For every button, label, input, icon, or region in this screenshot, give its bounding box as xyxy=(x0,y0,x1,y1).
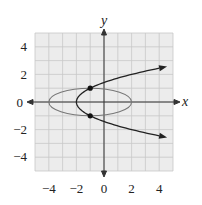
intersection-point-lower xyxy=(88,113,93,118)
x-tick-label: 0 xyxy=(101,181,108,196)
x-tick-label: 4 xyxy=(156,181,163,196)
y-axis-down-arrow-icon xyxy=(102,171,107,177)
intersection-point-upper xyxy=(88,86,93,91)
y-tick-label: −2 xyxy=(13,122,27,137)
graph: y x −4 −2 0 2 4 4 2 0 −2 −4 xyxy=(0,0,202,205)
y-tick-label: −4 xyxy=(13,149,27,164)
x-tick-label: −2 xyxy=(69,181,83,196)
y-axis-up-arrow-icon xyxy=(102,29,107,35)
x-tick-label: −4 xyxy=(42,181,56,196)
x-axis-label: x xyxy=(181,94,189,109)
y-tick-label: 4 xyxy=(21,39,28,54)
x-axis-right-arrow-icon xyxy=(174,100,180,105)
y-tick-label: 2 xyxy=(21,67,28,82)
x-tick-label: 2 xyxy=(128,181,135,196)
y-tick-label: 0 xyxy=(17,95,24,110)
x-axis-left-arrow-icon xyxy=(27,100,33,105)
y-axis-label: y xyxy=(99,13,108,28)
